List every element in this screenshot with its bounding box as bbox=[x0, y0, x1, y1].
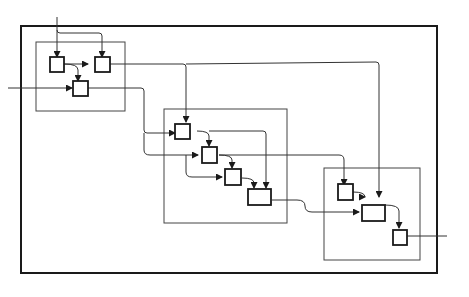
block-b1 bbox=[175, 124, 190, 139]
wire-c2-c3 bbox=[385, 205, 399, 228]
block-a3 bbox=[73, 81, 88, 96]
block-diagram bbox=[0, 0, 469, 297]
subsystem-box-1 bbox=[36, 42, 125, 111]
wire-a1-a3 bbox=[64, 64, 78, 81]
block-a1 bbox=[50, 57, 64, 72]
wire-b2-b3 bbox=[219, 155, 232, 168]
block-b3 bbox=[225, 169, 241, 185]
block-c3 bbox=[393, 230, 407, 245]
nodes bbox=[50, 57, 407, 245]
wire-a2-b1 bbox=[109, 64, 186, 122]
connections bbox=[8, 17, 447, 236]
block-c2 bbox=[362, 205, 385, 221]
wire-c1-c2 bbox=[353, 192, 365, 197]
wire-input-top-a2 bbox=[57, 30, 102, 57]
block-a2 bbox=[95, 57, 110, 72]
block-b4 bbox=[248, 189, 271, 205]
block-b2 bbox=[202, 147, 217, 163]
wire-b4-c2 bbox=[272, 200, 359, 212]
wire-b1-b2 bbox=[197, 131, 209, 146]
block-c1 bbox=[338, 184, 353, 200]
wire-b3-b4 bbox=[242, 178, 254, 188]
